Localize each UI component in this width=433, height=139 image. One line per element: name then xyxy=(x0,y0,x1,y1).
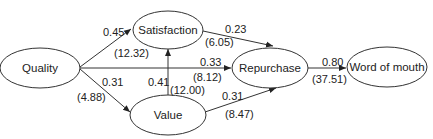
node-value: Value xyxy=(130,95,206,135)
coef-quality-satisfaction: 0.45 xyxy=(103,26,124,38)
tstat-repurchase-wom: (37.51) xyxy=(312,73,347,85)
tstat-value-repurchase: (8.47) xyxy=(225,108,254,120)
coef-satisfaction-repurchase: 0.23 xyxy=(225,23,246,35)
node-satisfaction: Satisfaction xyxy=(133,11,203,49)
node-quality-label: Quality xyxy=(22,62,58,74)
coef-quality-value: 0.31 xyxy=(102,76,123,88)
coef-quality-repurchase: 0.33 xyxy=(200,56,221,68)
node-value-label: Value xyxy=(154,109,183,121)
node-repurchase: Repurchase xyxy=(232,48,308,88)
coef-repurchase-wom: 0.80 xyxy=(322,56,343,68)
path-diagram: Quality Satisfaction Value Repurchase Wo… xyxy=(0,0,433,139)
tstat-quality-satisfaction: (12.32) xyxy=(114,47,149,59)
node-word-of-mouth: Word of mouth xyxy=(347,47,427,87)
tstat-satisfaction-repurchase: (6.05) xyxy=(205,36,234,48)
node-satisfaction-label: Satisfaction xyxy=(138,24,197,36)
tstat-value-satisfaction: (12.00) xyxy=(170,84,205,96)
node-repurchase-label: Repurchase xyxy=(239,62,301,74)
coef-value-satisfaction: 0.41 xyxy=(148,76,169,88)
coef-value-repurchase: 0.31 xyxy=(222,90,243,102)
tstat-quality-value: (4.88) xyxy=(77,91,106,103)
tstat-quality-repurchase: (8.12) xyxy=(193,71,222,83)
node-quality: Quality xyxy=(0,48,80,88)
node-word-of-mouth-label: Word of mouth xyxy=(349,61,424,73)
